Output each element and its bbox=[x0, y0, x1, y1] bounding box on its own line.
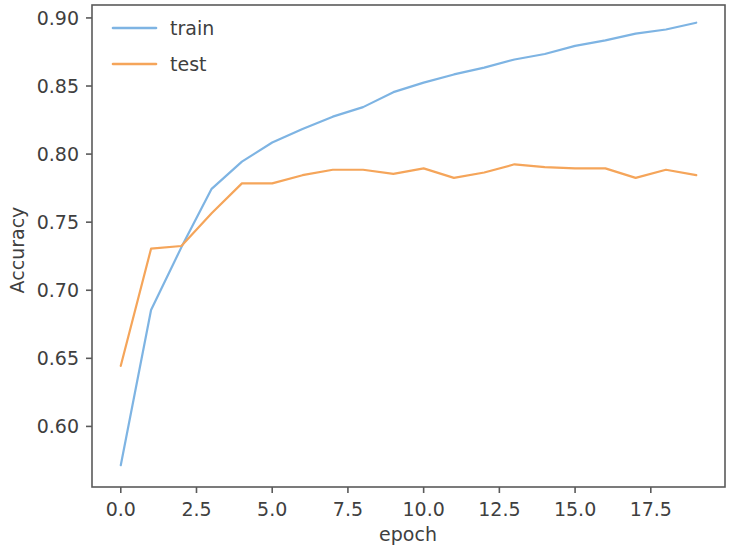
plot-area-background bbox=[92, 5, 725, 487]
legend-label-train: train bbox=[170, 17, 214, 39]
figure-canvas: 0.02.55.07.510.012.515.017.5 0.600.650.7… bbox=[0, 0, 741, 549]
x-tick-label: 7.5 bbox=[333, 498, 363, 520]
y-tick-label: 0.60 bbox=[37, 415, 79, 437]
x-tick-label: 5.0 bbox=[257, 498, 287, 520]
x-tick-label: 15.0 bbox=[554, 498, 596, 520]
x-tick-label: 10.0 bbox=[402, 498, 444, 520]
y-tick-label: 0.90 bbox=[37, 7, 79, 29]
x-axis-title: epoch bbox=[379, 523, 437, 545]
y-tick-label: 0.85 bbox=[37, 75, 79, 97]
x-tick-label: 2.5 bbox=[181, 498, 211, 520]
x-tick-label: 0.0 bbox=[106, 498, 136, 520]
y-axis-tick-marks bbox=[86, 18, 92, 426]
y-tick-label: 0.65 bbox=[37, 347, 79, 369]
y-axis-tick-labels: 0.600.650.700.750.800.850.90 bbox=[37, 7, 79, 437]
y-tick-label: 0.75 bbox=[37, 211, 79, 233]
x-tick-label: 12.5 bbox=[478, 498, 520, 520]
line-chart: 0.02.55.07.510.012.515.017.5 0.600.650.7… bbox=[0, 0, 741, 549]
x-axis-tick-labels: 0.02.55.07.510.012.515.017.5 bbox=[106, 498, 672, 520]
y-axis-title: Accuracy bbox=[6, 207, 28, 294]
x-tick-label: 17.5 bbox=[630, 498, 672, 520]
legend-label-test: test bbox=[170, 53, 207, 75]
y-tick-label: 0.80 bbox=[37, 143, 79, 165]
x-axis-tick-marks bbox=[121, 487, 651, 493]
y-tick-label: 0.70 bbox=[37, 279, 79, 301]
